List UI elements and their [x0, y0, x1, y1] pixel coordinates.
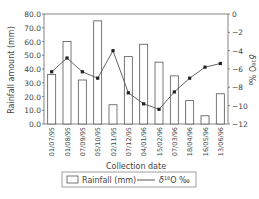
rainfall-bar	[124, 57, 132, 124]
isotope-marker	[65, 56, 68, 59]
x-tick-label: 04/01/96	[140, 127, 148, 156]
isotope-marker	[111, 49, 114, 52]
y-tick-label: 20.0	[24, 93, 41, 102]
isotope-marker	[81, 70, 84, 73]
right-axis-ticks: 0−2−4−6−8−10−12	[228, 10, 248, 129]
rainfall-bar	[186, 101, 194, 124]
y2-axis-label: δ18O ‰	[247, 55, 257, 86]
y2-tick-label: −10	[232, 102, 248, 111]
x-tick-label: 07/12/95	[125, 127, 133, 156]
x-tick-label: 15/02/96	[156, 127, 164, 156]
y-tick-label: 50.0	[24, 51, 41, 60]
x-tick-label: 18/04/96	[186, 127, 194, 156]
x-tick-label: 07/09/95	[79, 127, 87, 156]
y-axis-label: Rainfall amount (mm)	[7, 26, 16, 114]
legend-line-label: δ18O ‰	[159, 175, 190, 185]
isotope-marker	[173, 90, 176, 93]
rainfall-bar	[140, 44, 148, 124]
y-tick-label: 60.0	[24, 38, 41, 47]
rainfall-isotope-chart: 0.010.020.030.040.050.060.070.080.0 0−2−…	[0, 0, 259, 199]
rainfall-bar	[48, 75, 56, 125]
legend: Rainfall (mm) δ18O ‰	[62, 172, 196, 187]
y2-tick-label: −12	[232, 120, 248, 129]
x-tick-label: 02/11/95	[110, 127, 118, 156]
x-tick-label: 01/08/95	[64, 127, 72, 156]
rainfall-bar	[216, 94, 224, 124]
isotope-marker	[203, 66, 206, 69]
isotope-marker	[50, 70, 53, 73]
y2-tick-label: −6	[232, 65, 243, 74]
y-tick-label: 80.0	[24, 10, 41, 19]
x-axis-label: Collection date	[106, 162, 166, 171]
legend-bar-swatch	[67, 176, 78, 183]
rainfall-bar	[201, 116, 209, 124]
isotope-marker	[157, 108, 160, 111]
y-tick-label: 40.0	[24, 65, 41, 74]
y-tick-label: 10.0	[24, 106, 41, 115]
x-tick-label: 01/07/95	[48, 127, 56, 156]
isotope-marker	[219, 62, 222, 65]
isotope-marker	[142, 102, 145, 105]
y-tick-label: 0.0	[29, 120, 41, 129]
x-tick-label: 13/06/96	[217, 127, 225, 156]
isotope-marker	[127, 91, 130, 94]
rainfall-bar	[155, 62, 163, 124]
y2-tick-label: 0	[232, 10, 237, 19]
isotope-marker	[188, 77, 191, 80]
x-axis-tick-labels: 01/07/9501/08/9507/09/9505/10/9502/11/95…	[48, 127, 225, 156]
y-tick-label: 70.0	[24, 24, 41, 33]
x-tick-label: 16/05/96	[202, 127, 210, 156]
y2-tick-label: −8	[232, 83, 243, 92]
y2-tick-label: −2	[232, 28, 243, 37]
rainfall-bar	[109, 105, 117, 124]
rainfall-bar	[63, 42, 71, 125]
y-tick-label: 30.0	[24, 79, 41, 88]
rainfall-bar	[78, 80, 86, 124]
x-tick-label: 05/10/95	[94, 127, 102, 156]
x-tick-label: 07/03/96	[171, 127, 179, 156]
rainfall-bar	[170, 76, 178, 124]
isotope-marker	[96, 77, 99, 80]
isotope-line	[50, 49, 222, 111]
plot-area	[44, 14, 228, 124]
y2-tick-label: −4	[232, 47, 243, 56]
legend-bar-label: Rainfall (mm)	[82, 176, 136, 185]
left-axis-ticks: 0.010.020.030.040.050.060.070.080.0	[24, 10, 44, 129]
